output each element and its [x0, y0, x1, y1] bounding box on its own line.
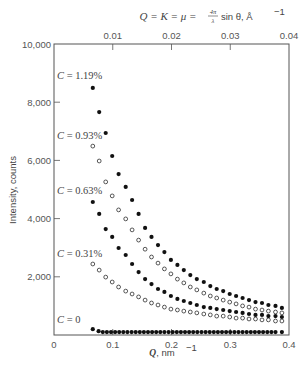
filled-circle-marker	[169, 258, 173, 262]
filled-circle-marker	[228, 292, 232, 296]
open-circle-marker	[176, 277, 180, 281]
filled-circle-marker	[208, 306, 212, 310]
filled-circle-marker	[208, 330, 212, 334]
filled-circle-marker	[273, 330, 277, 334]
open-circle-marker	[228, 300, 232, 304]
svg-text:Q = K = μ =: Q = K = μ =	[140, 10, 197, 22]
open-circle-marker	[195, 311, 199, 315]
open-circle-marker	[274, 319, 278, 323]
filled-circle-marker	[113, 330, 117, 334]
filled-circle-marker	[162, 290, 166, 294]
filled-circle-marker	[261, 330, 265, 334]
top-axis-ticks: 0.010.020.030.04	[104, 30, 299, 50]
filled-circle-marker	[150, 330, 154, 334]
filled-circle-marker	[137, 270, 141, 274]
filled-circle-marker	[204, 330, 208, 334]
filled-circle-marker	[202, 280, 206, 284]
filled-circle-marker	[280, 330, 284, 334]
open-circle-marker	[182, 281, 186, 285]
filled-circle-marker	[175, 330, 179, 334]
filled-circle-marker	[221, 289, 225, 293]
open-circle-marker	[117, 208, 121, 212]
series-4	[91, 327, 284, 334]
filled-circle-marker	[162, 330, 166, 334]
open-circle-marker	[260, 308, 264, 312]
open-circle-marker	[260, 318, 264, 322]
open-circle-marker	[91, 144, 95, 148]
filled-circle-marker	[195, 277, 199, 281]
filled-circle-marker	[156, 287, 160, 291]
filled-circle-marker	[202, 305, 206, 309]
open-circle-marker	[254, 317, 258, 321]
filled-circle-marker	[215, 307, 219, 311]
filled-circle-marker	[158, 330, 162, 334]
filled-circle-marker	[212, 330, 216, 334]
filled-circle-marker	[265, 330, 269, 334]
open-circle-marker	[97, 268, 101, 272]
filled-circle-marker	[104, 227, 108, 231]
open-circle-marker	[247, 305, 251, 309]
data-series	[91, 86, 284, 334]
filled-circle-marker	[124, 253, 128, 257]
filled-circle-marker	[117, 172, 121, 176]
open-circle-marker	[208, 294, 212, 298]
open-circle-marker	[163, 305, 167, 309]
filled-circle-marker	[121, 330, 125, 334]
x-tick-label: 0	[51, 339, 56, 350]
filled-circle-marker	[241, 296, 245, 300]
filled-circle-marker	[241, 311, 245, 315]
series-label: C = 0.31%	[57, 248, 103, 259]
filled-circle-marker	[110, 154, 114, 158]
open-circle-marker	[176, 308, 180, 312]
filled-circle-marker	[253, 313, 257, 317]
y-tick-label: 10,000	[22, 39, 51, 50]
filled-circle-marker	[117, 330, 121, 334]
filled-circle-marker	[266, 314, 270, 318]
y-tick-label: 2,000	[27, 271, 51, 282]
filled-circle-marker	[215, 287, 219, 291]
filled-circle-marker	[234, 310, 238, 314]
open-circle-marker	[143, 247, 147, 251]
filled-circle-marker	[175, 297, 179, 301]
filled-circle-marker	[220, 330, 224, 334]
filled-circle-marker	[101, 330, 105, 334]
filled-circle-marker	[232, 330, 236, 334]
open-circle-marker	[215, 296, 219, 300]
filled-circle-marker	[280, 315, 284, 319]
saxs-intensity-chart: Q = K = μ = 4π λ sin θ, Å −1 0.010.020.0…	[0, 0, 304, 366]
open-circle-marker	[110, 194, 114, 198]
filled-circle-marker	[143, 226, 147, 230]
open-circle-marker	[182, 309, 186, 313]
filled-circle-marker	[221, 308, 225, 312]
open-circle-marker	[163, 267, 167, 271]
open-circle-marker	[137, 295, 141, 299]
filled-circle-marker	[137, 212, 141, 216]
svg-text:Q, nm: Q, nm	[149, 347, 174, 358]
open-circle-marker	[104, 180, 108, 184]
filled-circle-marker	[249, 330, 253, 334]
filled-circle-marker	[97, 329, 101, 333]
filled-circle-marker	[125, 330, 129, 334]
filled-circle-marker	[105, 330, 109, 334]
open-circle-marker	[91, 262, 95, 266]
filled-circle-marker	[156, 243, 160, 247]
filled-circle-marker	[130, 198, 134, 202]
open-circle-marker	[202, 312, 206, 316]
filled-circle-marker	[228, 330, 232, 334]
top-tick-label: 0.01	[104, 30, 123, 41]
open-circle-marker	[143, 298, 147, 302]
filled-circle-marker	[134, 330, 138, 334]
filled-circle-marker	[182, 299, 186, 303]
filled-circle-marker	[149, 282, 153, 286]
x-tick-label: 0.1	[106, 339, 119, 350]
x-tick-label: 0.4	[282, 339, 295, 350]
filled-circle-marker	[224, 330, 228, 334]
filled-circle-marker	[183, 330, 187, 334]
filled-circle-marker	[97, 212, 101, 216]
svg-text:4π: 4π	[210, 8, 217, 15]
y-tick-label: 4,000	[27, 213, 51, 224]
top-tick-label: 0.03	[221, 30, 240, 41]
open-circle-marker	[150, 255, 154, 259]
filled-circle-marker	[146, 330, 150, 334]
open-circle-marker	[254, 307, 258, 311]
